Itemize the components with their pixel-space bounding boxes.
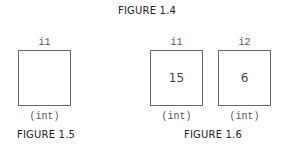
variable-box: 6 xyxy=(218,50,271,106)
variable-type-label: (int) xyxy=(218,111,271,122)
variable-name-label: i1 xyxy=(18,37,71,48)
variable-name-label: i1 xyxy=(150,37,203,48)
variable-box xyxy=(18,50,71,106)
variable-name-label: i2 xyxy=(218,37,271,48)
figure-1-4-caption: FIGURE 1.4 xyxy=(118,5,176,16)
variable-value: 15 xyxy=(169,71,184,85)
variable-value: 6 xyxy=(241,71,249,85)
figure-1-5-caption: FIGURE 1.5 xyxy=(17,129,75,140)
variable-type-label: (int) xyxy=(18,111,71,122)
variable-type-label: (int) xyxy=(150,111,203,122)
variable-box: 15 xyxy=(150,50,203,106)
figure-1-6-caption: FIGURE 1.6 xyxy=(184,129,242,140)
